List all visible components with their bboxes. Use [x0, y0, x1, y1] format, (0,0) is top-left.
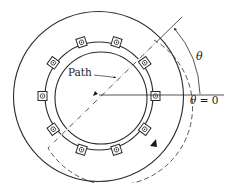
- path-direction-arrow-icon: [150, 139, 157, 147]
- path-inward-arrow-icon: [93, 91, 98, 96]
- theta-label: θ: [196, 51, 203, 62]
- theta-zero-value: = 0: [196, 94, 218, 106]
- stator-inner-ring: [38, 37, 160, 156]
- path-leader-line: [94, 75, 116, 78]
- path-label: Path: [68, 67, 92, 78]
- machine-cross-section-diagram: [0, 0, 236, 183]
- integration-path-arc: [48, 40, 193, 183]
- theta-zero-label: θ = 0: [190, 95, 218, 106]
- stator-slots: [38, 37, 160, 156]
